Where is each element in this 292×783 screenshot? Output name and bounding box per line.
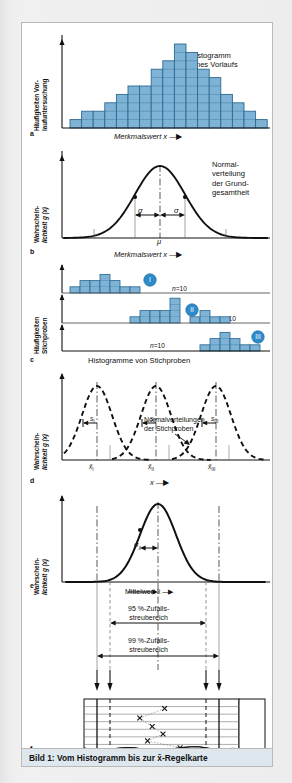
panel-e-mean-distribution: Wahrschein-lichkeit g (x) e σx̄ Mittelwe… bbox=[22, 490, 274, 695]
panel-b-normal-population: Wahrschein-lichkeit g (x) b Normal-verte… bbox=[22, 143, 274, 261]
panel-d-sample-distributions: Wahrschein-lichkeit g (x) d Normalvertei… bbox=[22, 368, 274, 490]
svg-text:I: I bbox=[149, 276, 151, 283]
svg-text:III: III bbox=[255, 333, 261, 340]
panel-e-svg bbox=[22, 490, 274, 695]
panel-d-svg bbox=[22, 368, 274, 490]
panel-a-svg bbox=[22, 27, 274, 143]
svg-text:II: II bbox=[190, 306, 194, 313]
figure-caption: Bild 1: Vom Histogramm bis zur x̄-Regelk… bbox=[21, 748, 273, 767]
panel-c-svg: IIIIII bbox=[22, 261, 274, 368]
figure-container: Häufigkeiten Vor-laufuntersuchung a Hist… bbox=[21, 22, 273, 762]
panel-b-svg bbox=[22, 143, 274, 261]
panel-a-histogram: Häufigkeiten Vor-laufuntersuchung a Hist… bbox=[22, 27, 274, 143]
panel-c-sample-histograms: HäufigkeitenStichproben c Histogramme vo… bbox=[22, 261, 274, 368]
